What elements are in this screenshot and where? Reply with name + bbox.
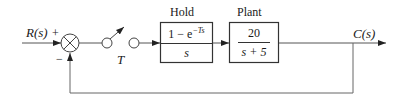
summing-junction (61, 34, 79, 52)
sampling-period-label: T (117, 53, 124, 66)
hold-numerator-base: 1 − e (168, 27, 192, 41)
plant-transfer-function: 20 s + 5 (230, 23, 278, 62)
sampler-switch (102, 27, 139, 48)
hold-denominator: s (182, 47, 191, 59)
input-plus-sign: + (52, 27, 59, 39)
hold-fraction-bar (161, 43, 212, 44)
plant-numerator: 20 (246, 27, 262, 39)
hold-numerator: 1 − e−Ts (166, 27, 206, 40)
switch-arm-arrow (110, 27, 124, 39)
hold-transfer-function: 1 − e−Ts s (161, 23, 212, 62)
plant-title: Plant (237, 6, 262, 18)
hold-numerator-exponent: −Ts (192, 26, 204, 35)
plant-denominator: s + 5 (240, 46, 269, 58)
input-label: R(s) (26, 26, 48, 39)
block-diagram: R(s) + − T Hold 1 − e−Ts s Plant 20 s + … (0, 0, 400, 101)
output-label: C(s) (353, 27, 375, 40)
plant-fraction-bar (238, 42, 270, 43)
hold-title: Hold (170, 6, 194, 18)
feedback-minus-sign: − (56, 53, 63, 65)
